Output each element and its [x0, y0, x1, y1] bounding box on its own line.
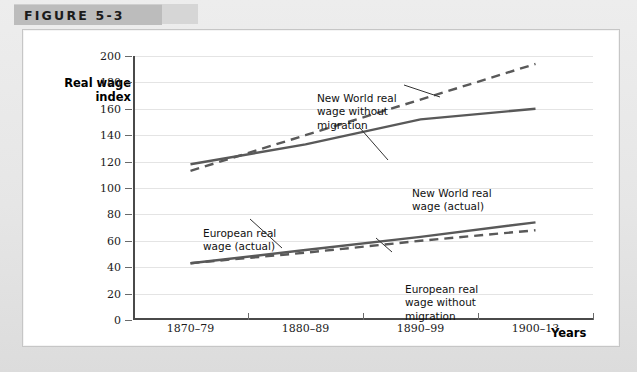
y-axis-tick-label: 80 — [107, 208, 121, 221]
y-axis-tick-label: 0 — [114, 314, 121, 327]
y-axis-tick — [125, 320, 132, 321]
y-axis-tick-label: 120 — [100, 155, 121, 168]
y-axis-tick — [125, 188, 132, 189]
x-axis-tick-label: 1880–89 — [282, 322, 330, 335]
figure-header-tail — [162, 4, 198, 24]
y-axis-tick-label: 20 — [107, 287, 121, 300]
y-axis-tick-label: 140 — [100, 129, 121, 142]
figure-header-bar: FIGURE 5-3 — [14, 4, 162, 25]
y-axis-tick — [125, 162, 132, 163]
y-axis-tick — [125, 241, 132, 242]
y-axis-tick — [125, 214, 132, 215]
y-axis-tick-label: 160 — [100, 102, 121, 115]
figure-container: FIGURE 5-3 Real wage index Years 0204060… — [0, 0, 637, 372]
x-axis-tick-label: 1870–79 — [167, 322, 215, 335]
annotation-european-actual: European real wage (actual) — [203, 227, 276, 254]
annotation-new-world-without-migration: New World real wage without migration — [317, 92, 397, 132]
figure-label: FIGURE 5-3 — [24, 8, 125, 23]
y-axis-tick-label: 60 — [107, 234, 121, 247]
y-axis-tick-label: 200 — [100, 50, 121, 63]
y-axis-tick — [125, 135, 132, 136]
y-axis-tick — [125, 109, 132, 110]
annotation-new-world-actual: New World real wage (actual) — [412, 187, 492, 214]
y-axis-tick — [125, 56, 132, 57]
x-axis-tick — [593, 313, 594, 320]
y-axis-tick — [125, 294, 132, 295]
x-axis-tick-label: 1890–99 — [397, 322, 445, 335]
y-axis-tick-label: 100 — [100, 182, 121, 195]
chart-card: Real wage index Years 020406080100120140… — [22, 29, 620, 347]
y-axis-tick — [125, 82, 132, 83]
y-axis-tick-label: 40 — [107, 261, 121, 274]
y-axis-tick-label: 180 — [100, 76, 121, 89]
x-axis-tick-label: 1900–13 — [512, 322, 560, 335]
y-axis-tick — [125, 267, 132, 268]
annotation-european-without-migration: European real wage without migration — [405, 283, 478, 323]
